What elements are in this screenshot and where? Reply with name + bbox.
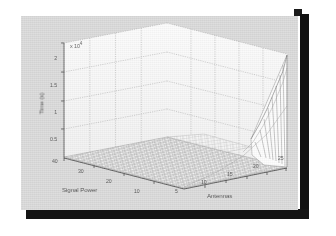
z-tick-label: 20: [253, 163, 259, 169]
y-axis-exponent: x 104: [70, 41, 82, 49]
page-shadow-right: [300, 14, 309, 212]
z-tick-label: 5: [175, 188, 178, 194]
y-tick-label: 1: [41, 109, 57, 115]
z-tick-label: 10: [201, 179, 207, 185]
surface-plot-axes: [21, 16, 298, 210]
exponent-base: x 10: [70, 43, 80, 49]
x-tick-label: 20: [106, 178, 112, 184]
page-shadow-bottom: [26, 209, 309, 219]
z-tick-label: 25: [278, 155, 284, 161]
exponent-power: 4: [80, 41, 82, 46]
z-tick-label: 15: [227, 171, 233, 177]
x-tick-label: 10: [134, 188, 140, 194]
y-tick-label: 1.5: [41, 82, 57, 88]
matlab-figure-panel: x 104 Time (s) Signal Power Antennas 2 1…: [21, 16, 298, 210]
y-tick-label: 0.5: [41, 136, 57, 142]
z-axis-title: Antennas: [207, 192, 232, 199]
y-tick-label: 2: [41, 55, 57, 61]
x-tick-label: 40: [52, 158, 58, 164]
x-tick-label: 30: [78, 168, 84, 174]
x-axis-title: Signal Power: [62, 186, 97, 193]
screenshot-root: x 104 Time (s) Signal Power Antennas 2 1…: [0, 0, 336, 236]
